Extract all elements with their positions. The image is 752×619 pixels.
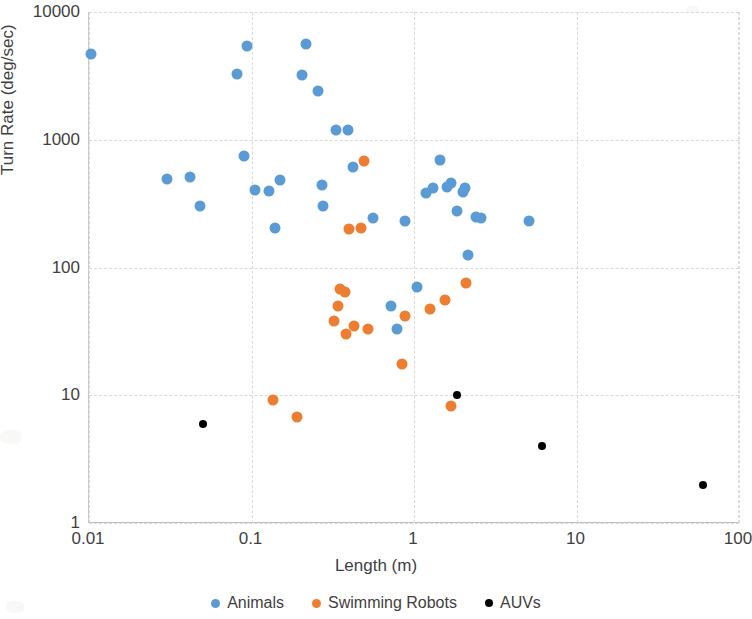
data-point-robots <box>461 278 472 289</box>
data-point-animals <box>249 184 260 195</box>
gridline-horizontal <box>89 523 739 524</box>
data-point-animals <box>452 206 463 217</box>
data-point-animals <box>312 86 323 97</box>
legend-label: AUVs <box>500 594 541 612</box>
data-point-animals <box>185 172 196 183</box>
data-point-animals <box>232 68 243 79</box>
data-point-robots <box>348 320 359 331</box>
gridline-vertical <box>577 12 578 523</box>
data-point-animals <box>316 180 327 191</box>
x-axis-title: Length (m) <box>0 556 752 576</box>
data-point-animals <box>476 212 487 223</box>
legend-marker-auvs-icon <box>485 599 493 607</box>
data-point-robots <box>332 300 343 311</box>
data-point-animals <box>275 174 286 185</box>
gridline-vertical <box>252 12 253 523</box>
data-point-robots <box>358 156 369 167</box>
data-point-animals <box>317 200 328 211</box>
data-point-animals <box>161 174 172 185</box>
data-point-animals <box>412 282 423 293</box>
data-point-robots <box>396 359 407 370</box>
data-point-animals <box>385 300 396 311</box>
x-tick-label: 10 <box>566 529 585 549</box>
x-tick-label: 0.01 <box>71 529 104 549</box>
gridline-vertical <box>414 12 415 523</box>
data-point-animals <box>343 124 354 135</box>
legend-marker-robots-icon <box>312 599 321 608</box>
data-point-robots <box>399 310 410 321</box>
data-point-animals <box>263 185 274 196</box>
x-tick-label: 1 <box>408 529 417 549</box>
data-point-robots <box>339 287 350 298</box>
data-point-robots <box>328 316 339 327</box>
data-point-animals <box>399 216 410 227</box>
data-point-animals <box>270 222 281 233</box>
scatter-chart: 110100100010000 0.010.1110100 Turn Rate … <box>0 0 752 619</box>
data-point-animals <box>523 216 534 227</box>
legend-label: Swimming Robots <box>328 594 457 612</box>
y-tick-label: 10000 <box>33 2 80 22</box>
y-tick-label: 1000 <box>42 130 80 150</box>
data-point-robots <box>362 324 373 335</box>
data-point-robots <box>267 394 278 405</box>
data-point-robots <box>291 411 302 422</box>
x-tick-label: 0.1 <box>239 529 263 549</box>
data-point-robots <box>344 224 355 235</box>
gridline-vertical <box>739 12 740 523</box>
data-point-animals <box>330 124 341 135</box>
y-axis-title: Turn Rate (deg/sec) <box>0 0 18 175</box>
data-point-auvs <box>538 442 546 450</box>
data-point-animals <box>459 182 470 193</box>
data-point-animals <box>194 200 205 211</box>
legend-item-robots[interactable]: Swimming Robots <box>312 594 457 612</box>
data-point-auvs <box>453 391 461 399</box>
data-point-animals <box>300 39 311 50</box>
data-point-robots <box>446 401 457 412</box>
legend-item-animals[interactable]: Animals <box>211 594 284 612</box>
legend-item-auvs[interactable]: AUVs <box>485 594 541 612</box>
data-point-animals <box>86 48 97 59</box>
data-point-auvs <box>699 481 707 489</box>
data-point-animals <box>427 182 438 193</box>
data-point-auvs <box>199 420 207 428</box>
data-point-robots <box>340 329 351 340</box>
data-point-animals <box>242 41 253 52</box>
data-point-robots <box>424 304 435 315</box>
x-tick-label: 100 <box>724 529 752 549</box>
plot-area <box>88 12 738 523</box>
data-point-robots <box>355 222 366 233</box>
data-point-animals <box>435 155 446 166</box>
data-point-animals <box>239 151 250 162</box>
legend-label: Animals <box>227 594 284 612</box>
data-point-animals <box>368 212 379 223</box>
data-point-animals <box>463 250 474 261</box>
data-point-animals <box>392 324 403 335</box>
data-point-animals <box>446 177 457 188</box>
chart-legend: AnimalsSwimming RobotsAUVs <box>0 594 752 612</box>
data-point-animals <box>297 70 308 81</box>
gridline-vertical <box>89 12 90 523</box>
data-point-robots <box>439 294 450 305</box>
y-tick-label: 10 <box>61 385 80 405</box>
data-point-animals <box>347 162 358 173</box>
y-tick-label: 100 <box>52 258 80 278</box>
legend-marker-animals-icon <box>211 599 220 608</box>
